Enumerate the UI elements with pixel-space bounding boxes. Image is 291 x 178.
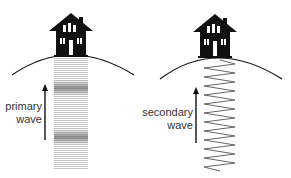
compression-wave	[54, 58, 88, 170]
arrow-up-icon	[193, 87, 199, 94]
diagram-graphics	[0, 0, 291, 178]
house-icon	[49, 13, 93, 57]
zigzag-wave	[204, 60, 235, 171]
compression-band-1	[54, 80, 88, 96]
label-line-1: secondary	[130, 106, 193, 119]
arrow-up-icon	[42, 84, 48, 91]
house-icon	[193, 14, 237, 58]
label-line-1: primary	[0, 100, 42, 113]
ground-surface-arc	[160, 58, 282, 79]
secondary-wave-panel	[160, 14, 282, 171]
primary-wave-label: primary wave	[0, 100, 42, 126]
secondary-wave-label: secondary wave	[130, 106, 193, 132]
seismic-wave-diagram: primary wave secondary wave	[0, 0, 291, 178]
label-line-2: wave	[130, 119, 193, 132]
compression-band-2	[54, 129, 88, 145]
label-line-2: wave	[0, 113, 42, 126]
primary-wave-panel	[12, 13, 134, 170]
